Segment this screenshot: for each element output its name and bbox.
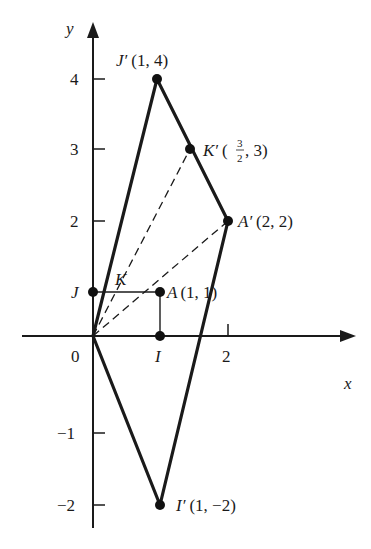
x-tick-2-label: 2 [222, 347, 231, 366]
y-tick-4-label: 4 [70, 70, 79, 89]
label-A-prime: A′(2, 2) [237, 212, 293, 231]
label-K-prime: K′( [202, 141, 228, 160]
y-tick-m1-label: −1 [57, 424, 75, 443]
label-I: I [154, 347, 162, 366]
origin-label: 0 [71, 347, 80, 366]
point-J [88, 287, 98, 297]
label-I-prime: I′(1, −2) [175, 496, 236, 515]
label-K-prime-frac-den: 2 [237, 152, 243, 164]
y-tick-2-label: 2 [70, 212, 79, 231]
label-K-prime-rest: , 3) [245, 141, 268, 160]
axes: y x 0 2 4 3 2 −1 −2 [22, 19, 356, 528]
y-tick-3-label: 3 [70, 140, 79, 159]
label-K: K [114, 270, 128, 289]
dashed-O-Kprime [93, 149, 190, 336]
point-I [155, 331, 165, 341]
x-axis-arrow-icon [340, 330, 356, 342]
point-K-prime [185, 144, 195, 154]
point-labels: J′(1, 4) K′( 3 2 , 3) A′(2, 2) J K A(1, … [71, 51, 293, 515]
y-axis-arrow-icon [87, 22, 99, 38]
y-axis-label: y [64, 19, 74, 38]
linear-transformation-diagram: y x 0 2 4 3 2 −1 −2 J′(1, 4) K′( [0, 0, 371, 549]
label-A: A(1, 1) [166, 283, 217, 302]
point-J-prime [152, 74, 162, 84]
point-A-prime [223, 216, 233, 226]
x-axis-label: x [343, 374, 352, 393]
point-A [155, 287, 165, 297]
y-tick-m2-label: −2 [57, 496, 75, 515]
label-J: J [71, 283, 80, 302]
point-I-prime [155, 500, 165, 510]
label-J-prime: J′(1, 4) [116, 51, 168, 70]
label-K-prime-frac-num: 3 [237, 137, 243, 149]
